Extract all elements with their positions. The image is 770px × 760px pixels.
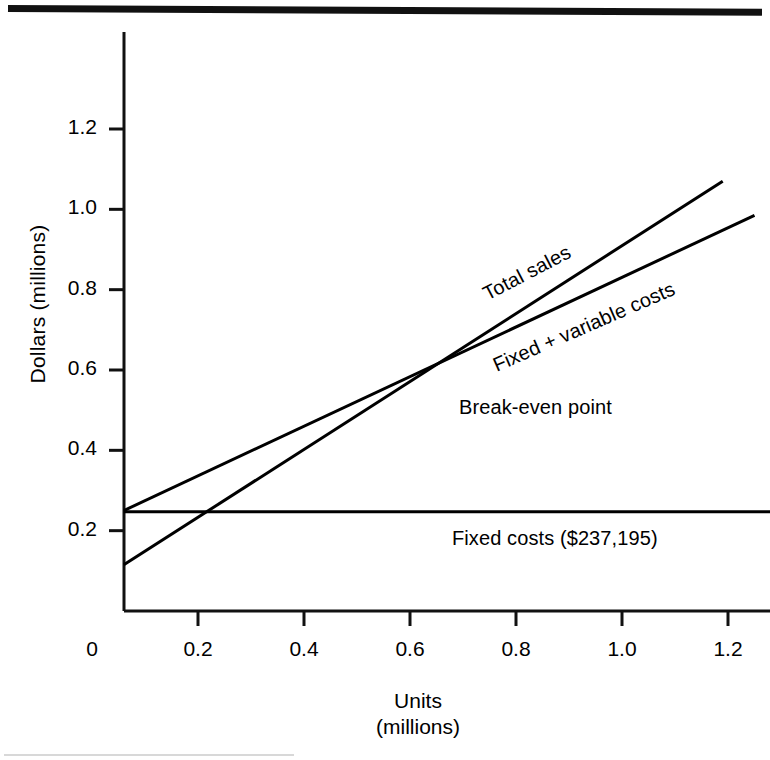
x-axis-title: Units (millions) <box>338 688 498 740</box>
figure-container: Dollars (millions) Units (millions) 0.20… <box>0 0 770 760</box>
x-axis-tick-label: 0.2 <box>168 637 228 661</box>
y-axis-ticks <box>109 129 124 531</box>
y-axis-tick-label: 0.2 <box>33 517 97 541</box>
x-axis-tick-label: 0 <box>62 637 122 661</box>
x-axis-title-line1: Units <box>338 688 498 714</box>
x-axis-title-line2: (millions) <box>338 714 498 740</box>
x-axis-tick-label: 0.4 <box>274 637 334 661</box>
x-axis-tick-label: 1.0 <box>592 637 652 661</box>
x-axis-tick-label: 0.6 <box>380 637 440 661</box>
y-axis-tick-label: 1.2 <box>33 115 97 139</box>
y-axis-tick-label: 0.6 <box>33 356 97 380</box>
x-axis-tick-label: 0.8 <box>486 637 546 661</box>
series-line-total-sales <box>124 181 723 565</box>
y-axis-tick-label: 0.8 <box>33 276 97 300</box>
bottom-divider-rule <box>4 754 294 756</box>
annotation-breakeven-point: Break-even point <box>459 396 612 419</box>
series-line-fixed-variable-costs <box>124 215 755 510</box>
y-axis-tick-label: 0.4 <box>33 436 97 460</box>
annotation-fixed-costs: Fixed costs ($237,195) <box>452 527 658 550</box>
y-axis-tick-label: 1.0 <box>33 195 97 219</box>
x-axis-ticks <box>198 611 728 626</box>
x-axis-tick-label: 1.2 <box>698 637 758 661</box>
